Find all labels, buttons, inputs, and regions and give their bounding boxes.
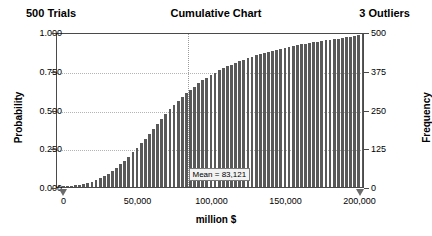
- bar: [66, 186, 69, 187]
- bar: [300, 44, 303, 187]
- mean-annotation: Mean = 83,121: [189, 168, 251, 181]
- bar: [173, 105, 176, 187]
- plot-area[interactable]: [56, 33, 364, 188]
- bar: [349, 37, 352, 187]
- y2-tick-label: 250: [371, 107, 411, 116]
- bar: [152, 129, 155, 187]
- bar: [304, 44, 307, 187]
- bar: [123, 161, 126, 187]
- bar: [140, 143, 143, 187]
- bar: [316, 42, 319, 187]
- bar: [288, 47, 291, 187]
- bar: [333, 39, 336, 187]
- bar: [345, 37, 348, 187]
- bar: [160, 119, 163, 187]
- x-axis-title: million $: [0, 214, 432, 225]
- bar: [82, 184, 85, 187]
- bar: [70, 186, 73, 187]
- bar: [103, 176, 106, 187]
- x-tick-label: 200,000: [325, 196, 395, 206]
- bar: [148, 134, 151, 187]
- bar: [308, 43, 311, 187]
- bar-series: [57, 34, 363, 187]
- y2-tick-label: 125: [371, 145, 411, 154]
- bar: [255, 55, 258, 187]
- range-grabber-left[interactable]: [59, 189, 67, 196]
- bar: [74, 185, 77, 187]
- y2-tick-mark: [364, 111, 369, 112]
- cumulative-chart-window: 500 Trials Cumulative Chart 3 Outliers P…: [0, 0, 432, 236]
- y-tick-mark: [51, 188, 56, 189]
- bar: [251, 57, 254, 187]
- bar: [263, 53, 266, 187]
- bar: [341, 38, 344, 187]
- bar: [259, 54, 262, 187]
- bar: [115, 168, 118, 187]
- bar: [156, 124, 159, 187]
- x-tick-label: 100,000: [177, 196, 247, 206]
- bar: [86, 183, 89, 187]
- bar: [337, 39, 340, 187]
- bar: [329, 40, 332, 187]
- bar: [353, 36, 356, 187]
- y-tick-mark: [51, 111, 56, 112]
- bar: [111, 171, 114, 187]
- bar: [107, 174, 110, 187]
- bar: [185, 93, 188, 187]
- bar: [325, 40, 328, 187]
- y2-tick-label: 500: [371, 29, 411, 38]
- chart-header: 500 Trials Cumulative Chart 3 Outliers: [0, 6, 432, 22]
- bar: [271, 51, 274, 187]
- bar: [95, 180, 98, 187]
- y-tick-mark: [51, 33, 56, 34]
- bar: [144, 139, 147, 187]
- bar: [62, 186, 65, 187]
- y-axis-title-frequency: Frequency: [421, 63, 432, 173]
- y-tick-mark: [51, 72, 56, 73]
- bar: [127, 157, 130, 187]
- bar: [320, 41, 323, 187]
- outliers-count: 3 Outliers: [359, 6, 410, 20]
- bar: [292, 46, 295, 187]
- bar: [136, 148, 139, 187]
- y-tick-mark: [51, 149, 56, 150]
- y2-tick-mark: [364, 72, 369, 73]
- y2-tick-label: 375: [371, 68, 411, 77]
- bar: [284, 48, 287, 187]
- bar: [267, 52, 270, 187]
- bar: [132, 152, 135, 187]
- bar: [296, 45, 299, 187]
- y2-tick-label: 0: [371, 184, 411, 193]
- bar: [275, 50, 278, 187]
- bar: [119, 164, 122, 187]
- bar: [279, 49, 282, 187]
- x-tick-label: 150,000: [251, 196, 321, 206]
- y2-tick-mark: [364, 149, 369, 150]
- bar: [169, 109, 172, 187]
- bar: [164, 114, 167, 187]
- x-tick-label: 0: [28, 196, 98, 206]
- bar: [99, 178, 102, 187]
- bar: [78, 185, 81, 187]
- bar: [312, 42, 315, 187]
- bar: [181, 97, 184, 187]
- bar: [91, 182, 94, 187]
- y2-tick-mark: [364, 188, 369, 189]
- y2-tick-mark: [364, 33, 369, 34]
- bar: [357, 35, 360, 187]
- x-tick-label: 50,000: [102, 196, 172, 206]
- range-grabber-right[interactable]: [356, 189, 364, 196]
- bar: [177, 101, 180, 187]
- y-axis-title-probability: Probability: [13, 63, 24, 173]
